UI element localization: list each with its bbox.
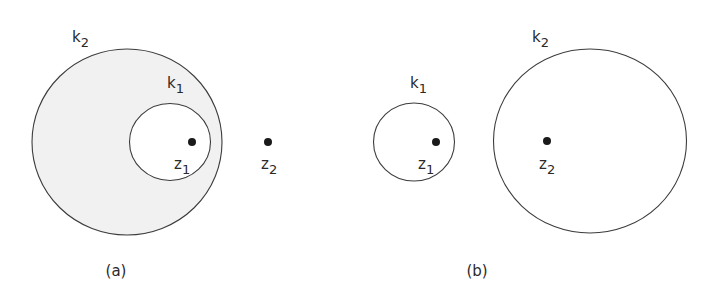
figure-canvas: k2 k1 z1 z2 (a) k1 k2 z1 z2 (b)	[0, 0, 716, 296]
circle-k2-b	[494, 49, 687, 233]
panel-b: k1 k2 z1 z2 (b)	[374, 28, 687, 280]
label-z2-b: z2	[539, 155, 555, 177]
circle-k1-b	[374, 103, 455, 181]
panel-a: k2 k1 z1 z2 (a)	[32, 28, 277, 280]
caption-a: (a)	[106, 262, 127, 280]
caption-b: (b)	[466, 262, 487, 280]
label-k2-a: k2	[72, 28, 89, 50]
label-z1-b: z1	[418, 155, 434, 177]
circle-k1-a	[130, 104, 211, 181]
label-z2-a: z2	[261, 155, 277, 177]
point-z2-a	[264, 138, 272, 146]
point-z1-a	[188, 138, 196, 146]
label-k1-b: k1	[410, 74, 427, 96]
point-z2-b	[543, 137, 551, 145]
point-z1-b	[432, 138, 440, 146]
label-k2-b: k2	[532, 28, 549, 50]
